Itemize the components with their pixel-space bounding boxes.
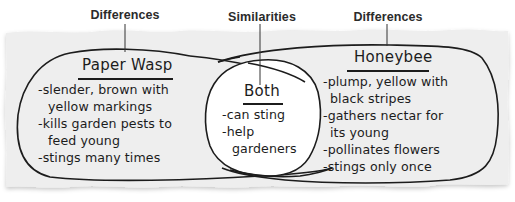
- left-set-item: -slender, brown with: [38, 82, 169, 99]
- overlap-item: gardeners: [232, 141, 297, 158]
- right-set-title-underline: [347, 70, 429, 72]
- right-set-title: Honeybee: [354, 48, 432, 66]
- left-set-item: -stings many times: [38, 150, 160, 167]
- left-set-item: feed young: [48, 133, 120, 150]
- overlap-item: -help: [222, 124, 254, 141]
- venn-diagram: Differences Similarities Differences Pap…: [0, 0, 515, 202]
- right-set-item: -stings only once: [323, 159, 432, 176]
- left-set-title: Paper Wasp: [82, 56, 173, 74]
- overlap-item: -can sting: [222, 107, 285, 124]
- left-set-title-underline: [78, 78, 173, 80]
- left-differences-label: Differences: [90, 8, 159, 22]
- right-set-item: -plump, yellow with: [323, 74, 448, 91]
- overlap-title-underline: [243, 103, 283, 105]
- right-set-item: black stripes: [330, 91, 411, 108]
- right-differences-label: Differences: [353, 10, 422, 24]
- left-set-item: -kills garden pests to: [38, 116, 172, 133]
- similarities-label: Similarities: [228, 10, 296, 24]
- overlap-title: Both: [244, 82, 280, 100]
- right-set-item: -pollinates flowers: [323, 142, 440, 159]
- right-set-item: its young: [330, 125, 389, 142]
- left-set-item: yellow markings: [48, 99, 152, 116]
- right-set-item: -gathers nectar for: [323, 108, 443, 125]
